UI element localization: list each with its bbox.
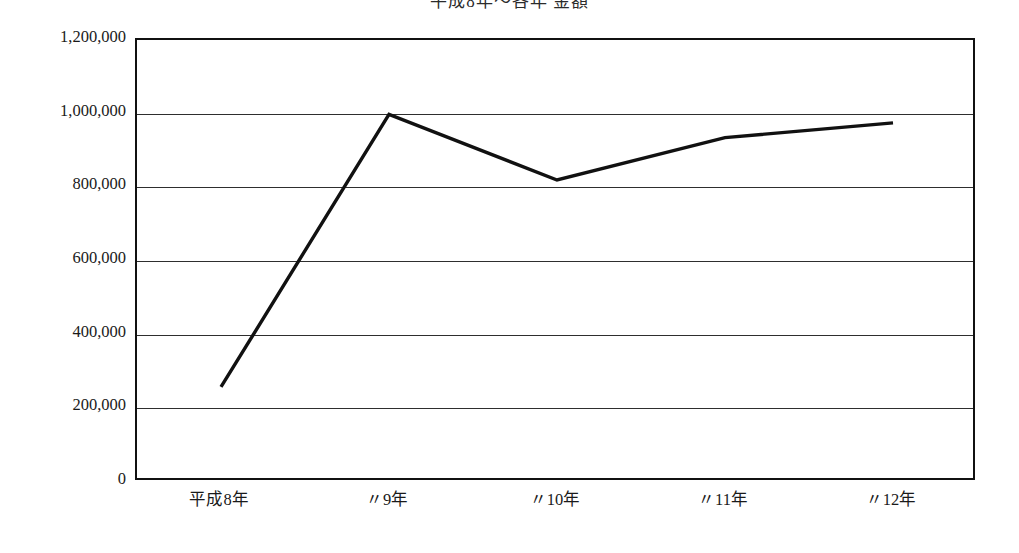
y-axis-tick-label: 200,000 — [0, 397, 126, 414]
x-axis-tick-label: 〃12年 — [866, 492, 917, 509]
x-axis-tick-labels: 平成8年〃9年〃10年〃11年〃12年 — [0, 492, 1019, 532]
x-axis-tick-label: 〃11年 — [698, 492, 748, 509]
chart-figure: 平成8年〜各年 金額 1,200,0001,000,000800,000600,… — [0, 0, 1019, 553]
y-axis-tick-label: 1,200,000 — [0, 29, 126, 46]
y-axis-tick-label: 800,000 — [0, 176, 126, 193]
y-axis-tick-label: 0 — [0, 471, 126, 488]
y-axis-tick-labels: 1,200,0001,000,000800,000600,000400,0002… — [0, 0, 1019, 553]
x-axis-tick-label: 〃10年 — [530, 492, 581, 509]
y-axis-tick-label: 400,000 — [0, 324, 126, 341]
x-axis-tick-label: 平成8年 — [189, 492, 248, 509]
y-axis-tick-label: 1,000,000 — [0, 103, 126, 120]
x-axis-tick-label: 〃9年 — [366, 492, 408, 509]
y-axis-tick-label: 600,000 — [0, 250, 126, 267]
